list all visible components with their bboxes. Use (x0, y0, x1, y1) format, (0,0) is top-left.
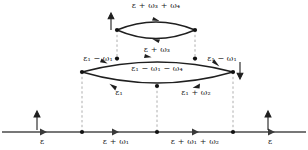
label-middle-loop-upper-right: ε₁ − ω₁ (207, 55, 237, 63)
spin-arrow-middle-loop-right (237, 62, 243, 79)
vertex-middle-loop-upper-left (115, 57, 119, 61)
baseline-group (2, 128, 306, 135)
label-middle-loop-lower-right: ε₁ + ω₂ (181, 89, 211, 97)
top-loop-arrowhead-upper (152, 17, 160, 21)
vertex-middle-loop-right (231, 70, 235, 74)
baseline-arrowhead-4 (268, 128, 275, 135)
top-loop-arrowhead-lower (152, 39, 160, 43)
diagram-canvas (0, 0, 308, 150)
top-loop-group (117, 22, 195, 39)
label-middle-loop-center: ε₁ − ω₁ − ω₄ (131, 65, 183, 73)
label-middle-loop-upper-left: ε₁ − ω₁ (83, 55, 113, 63)
vertex-baseline-right (231, 130, 235, 134)
vertex-middle-loop-left (80, 70, 84, 74)
spin-arrow-top-loop-left (108, 13, 114, 30)
label-baseline-segment-4: ε (268, 138, 272, 146)
top-loop-vertices (115, 28, 197, 32)
spin-arrow-middle-loop-right-head (237, 73, 243, 79)
spin-arrow-incoming-left-head (34, 111, 40, 117)
feynman-diagram-figure: ε + ω₃ + ω₄ ε + ω₃ ε₁ − ω₁ ε₁ − ω₁ ε₁ − … (0, 0, 308, 150)
spin-arrow-top-loop-left-head (108, 13, 114, 19)
spin-arrow-outgoing-right (265, 111, 271, 130)
label-baseline-segment-1: ε (40, 138, 44, 146)
label-top-loop-upper: ε + ω₃ + ω₄ (132, 2, 180, 10)
label-top-loop-lower: ε + ω₃ (144, 46, 170, 54)
top-loop-upper-arc (117, 22, 195, 30)
baseline-arrowhead-3 (192, 128, 199, 135)
baseline-arrowhead-1 (40, 128, 47, 135)
label-baseline-segment-2: ε + ω₁ (103, 138, 129, 146)
spin-arrow-incoming-left (34, 111, 40, 130)
baseline-arrowhead-2 (112, 128, 119, 135)
label-middle-loop-lower-left: ε₁ (115, 89, 123, 97)
vertex-baseline-center (155, 130, 159, 134)
top-loop-lower-arc (117, 30, 195, 39)
vertex-middle-loop-bottom (155, 84, 159, 88)
vertex-top-loop-left (115, 28, 119, 32)
label-baseline-segment-3: ε + ω₁ + ω₂ (171, 138, 219, 146)
vertex-baseline-left (80, 130, 84, 134)
vertex-top-loop-right (193, 28, 197, 32)
vertex-middle-loop-upper-right (193, 57, 197, 61)
middle-loop-lower-arc (82, 72, 233, 83)
spin-arrow-outgoing-right-head (265, 111, 271, 117)
middle-loop-arrowhead-upper-mid (144, 54, 152, 58)
